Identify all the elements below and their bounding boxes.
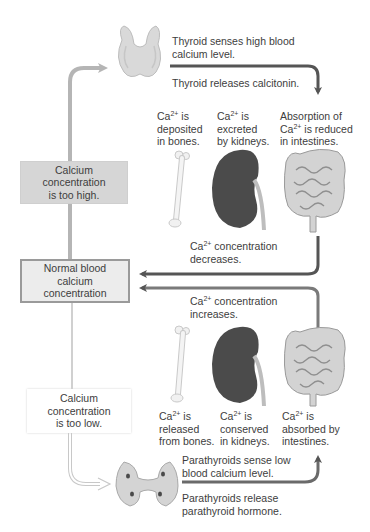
text: is bbox=[238, 110, 249, 122]
kidney-icon-top bbox=[212, 150, 264, 230]
bone-icon-bottom bbox=[171, 326, 190, 402]
arrow-low-to-parathyroid bbox=[70, 433, 100, 484]
text: increases. bbox=[190, 308, 277, 321]
text: is bbox=[303, 410, 314, 422]
text: conserved bbox=[220, 423, 270, 436]
text: is too high. bbox=[42, 189, 105, 202]
text: Calcium bbox=[42, 164, 105, 177]
text: concentration bbox=[211, 240, 277, 252]
arrow-high-to-thyroid bbox=[70, 68, 104, 161]
text: concentration bbox=[47, 405, 110, 418]
ion: Ca bbox=[157, 110, 170, 122]
text: concentration bbox=[42, 176, 105, 189]
ion: Ca bbox=[159, 410, 172, 422]
text: calcium bbox=[43, 275, 106, 288]
effect-kidneys-excrete: Ca2+ is excreted by kidneys. bbox=[217, 110, 270, 148]
ion: Ca bbox=[190, 240, 203, 252]
text: is bbox=[180, 410, 191, 422]
text: excreted bbox=[217, 123, 270, 136]
text: concentration bbox=[43, 287, 106, 300]
effect-kidneys-conserve: Ca2+ is conserved in kidneys. bbox=[220, 410, 270, 448]
text: is too low. bbox=[47, 417, 110, 430]
text: is bbox=[241, 410, 252, 422]
text: Absorption of bbox=[280, 110, 353, 123]
parathyroid-glands-icon bbox=[116, 462, 178, 506]
ion: Ca bbox=[220, 410, 233, 422]
condition-too-low-box: Calcium concentration is too low. bbox=[27, 389, 131, 433]
text: Calcium bbox=[47, 392, 110, 405]
effect-intestines-absorb: Ca2+ is absorbed by intestines. bbox=[282, 410, 340, 448]
text: decreases. bbox=[190, 253, 277, 266]
ion: Ca bbox=[190, 295, 203, 307]
text: from bones. bbox=[159, 435, 214, 448]
text: Parathyroids sense low bbox=[182, 454, 291, 467]
intestines-icon-bottom bbox=[284, 327, 345, 406]
ion: Ca bbox=[280, 123, 293, 135]
text: in bones. bbox=[157, 135, 203, 148]
intestines-icon-top bbox=[284, 149, 345, 232]
result-decrease-text: Ca2+ concentration decreases. bbox=[190, 240, 277, 265]
text: released bbox=[159, 423, 214, 436]
effect-bones-deposit: Ca2+ is deposited in bones. bbox=[157, 110, 203, 148]
parathyroid-sense-text: Parathyroids sense low blood calcium lev… bbox=[182, 454, 291, 479]
pth-release-text: Parathyroids release parathyroid hormone… bbox=[182, 492, 282, 517]
text: concentration bbox=[211, 295, 277, 307]
text: Parathyroids release bbox=[182, 492, 282, 505]
bone-icon-top bbox=[169, 151, 190, 227]
text: absorbed by bbox=[282, 423, 340, 436]
calcitonin-text: Thyroid releases calcitonin. bbox=[172, 77, 299, 90]
text: in intestines. bbox=[280, 135, 353, 148]
result-increase-text: Ca2+ concentration increases. bbox=[190, 295, 277, 320]
ion: Ca bbox=[282, 410, 295, 422]
text: parathyroid hormone. bbox=[182, 505, 282, 518]
kidney-icon-bottom bbox=[212, 327, 264, 406]
effect-bones-release: Ca2+ is released from bones. bbox=[159, 410, 214, 448]
text-line: Thyroid senses high blood bbox=[172, 35, 295, 48]
text: deposited bbox=[157, 123, 203, 136]
thyroid-sense-text: Thyroid senses high blood calcium level. bbox=[172, 35, 295, 60]
condition-too-high-box: Calcium concentration is too high. bbox=[20, 161, 128, 204]
text: is reduced bbox=[301, 123, 352, 135]
text: is bbox=[178, 110, 189, 122]
normal-calcium-box: Normal blood calcium concentration bbox=[20, 259, 130, 303]
effect-intestines-reduce: Absorption of Ca2+ is reduced in intesti… bbox=[280, 110, 353, 148]
ion: Ca bbox=[217, 110, 230, 122]
text: in kidneys. bbox=[220, 435, 270, 448]
text: blood calcium level. bbox=[182, 467, 291, 480]
text-line: calcium level. bbox=[172, 48, 295, 61]
text: by kidneys. bbox=[217, 135, 270, 148]
thyroid-gland-icon bbox=[118, 26, 160, 77]
text: Normal blood bbox=[43, 262, 106, 275]
text: intestines. bbox=[282, 435, 340, 448]
